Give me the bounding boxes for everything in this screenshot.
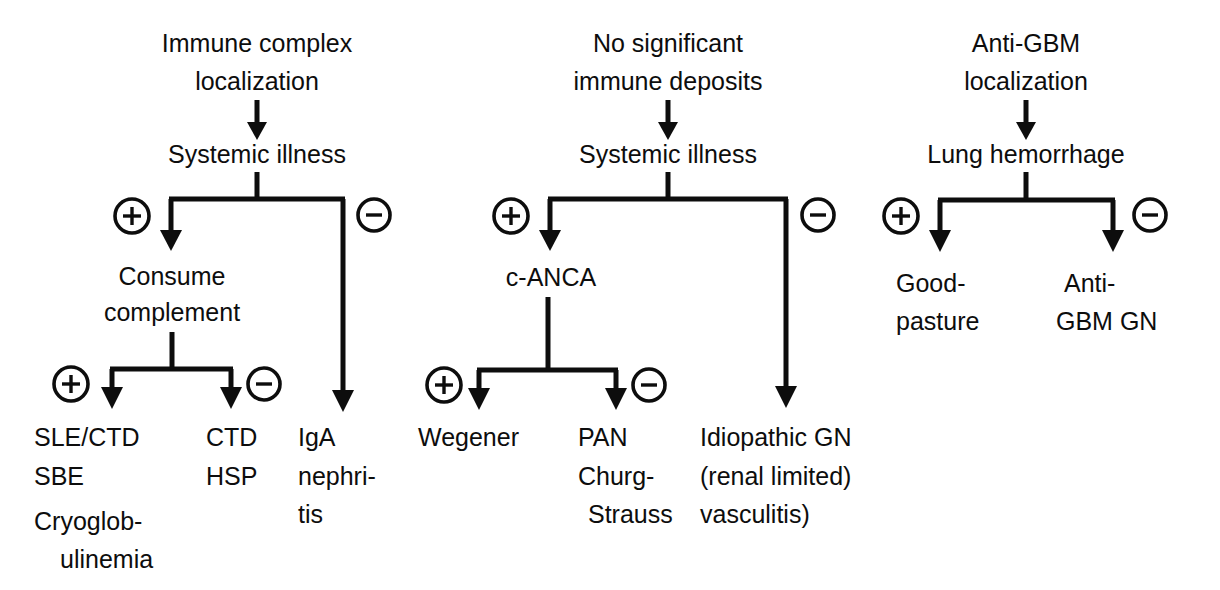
leaf-line: Cryoglob- xyxy=(34,507,142,535)
leaf-line: Good- xyxy=(896,269,965,297)
sign-negative-level1: - xyxy=(802,195,834,231)
column-title-line2: immune deposits xyxy=(574,67,763,95)
leaf-line: (renal limited) xyxy=(700,462,851,490)
column-immune-complex: Immune complex localization Systemic ill… xyxy=(34,29,390,573)
leaf-line: PAN xyxy=(578,423,628,451)
positive-node-line1: Consume xyxy=(119,262,226,290)
leaf-line: pasture xyxy=(896,307,979,335)
positive-node-line2: complement xyxy=(104,298,240,326)
leaf-line: tis xyxy=(298,500,323,528)
sign-positive-level1: + xyxy=(884,196,918,233)
leaf-line: Wegener xyxy=(418,423,519,451)
sign-negative-level1: - xyxy=(358,195,390,231)
sign-positive-level2: + xyxy=(427,365,461,402)
leaf-iga-nephritis: IgA nephri- tis xyxy=(298,423,376,528)
leaf-line: IgA xyxy=(298,423,336,451)
column-title-line2: localization xyxy=(964,67,1088,95)
step-label: Systemic illness xyxy=(579,140,757,168)
leaf-line: SBE xyxy=(34,462,84,490)
leaf-line: vasculitis) xyxy=(700,500,810,528)
leaf-line: GBM GN xyxy=(1056,307,1157,335)
leaf-line: ulinemia xyxy=(60,545,153,573)
column-anti-gbm: Anti-GBM localization Lung hemorrhage + xyxy=(884,29,1166,335)
leaf-line: nephri- xyxy=(298,462,376,490)
leaf-pan-churg-strauss: PAN Churg- Strauss xyxy=(578,423,673,528)
leaf-goodpasture: Good- pasture xyxy=(896,269,979,335)
branch-systemic-illness xyxy=(160,172,354,412)
leaf-sle-ctd-sbe-cryo: SLE/CTD SBE Cryoglob- ulinemia xyxy=(34,423,153,573)
sign-positive-level2: + xyxy=(54,364,88,401)
leaf-line: Churg- xyxy=(578,462,654,490)
sign-positive-level1: + xyxy=(115,196,149,233)
leaf-line: CTD xyxy=(206,423,257,451)
column-pauci-immune: No significant immune deposits Systemic … xyxy=(418,29,851,528)
step-label: Lung hemorrhage xyxy=(927,140,1124,168)
step-label: Systemic illness xyxy=(168,140,346,168)
branch-lung-hemorrhage xyxy=(929,172,1124,252)
flowchart-svg: Immune complex localization Systemic ill… xyxy=(0,0,1220,590)
leaf-line: Strauss xyxy=(588,500,673,528)
leaf-idiopathic-gn: Idiopathic GN (renal limited) vasculitis… xyxy=(700,423,851,528)
leaf-ctd-hsp: CTD HSP xyxy=(206,423,257,490)
column-title-line1: No significant xyxy=(593,29,743,57)
arrow-title-to-step xyxy=(658,100,678,140)
column-title-line1: Anti-GBM xyxy=(972,29,1080,57)
column-title-line1: Immune complex xyxy=(162,29,353,57)
column-title-line2: localization xyxy=(195,67,319,95)
sign-positive-level1: + xyxy=(494,196,528,233)
arrow-title-to-step xyxy=(247,100,267,140)
leaf-line: Idiopathic GN xyxy=(700,423,851,451)
positive-node-line1: c-ANCA xyxy=(506,263,597,291)
leaf-wegener: Wegener xyxy=(418,423,519,451)
branch-c-anca xyxy=(468,297,627,410)
sign-negative-level2: - xyxy=(633,365,665,401)
leaf-line: SLE/CTD xyxy=(34,423,140,451)
sign-negative-level1: - xyxy=(1134,195,1166,231)
leaf-anti-gbm-gn: Anti- GBM GN xyxy=(1056,269,1157,335)
flowchart-page: Immune complex localization Systemic ill… xyxy=(0,0,1220,590)
leaf-line: Anti- xyxy=(1064,269,1115,297)
arrow-title-to-step xyxy=(1016,100,1036,140)
branch-consume-complement xyxy=(101,332,242,409)
leaf-line: HSP xyxy=(206,462,257,490)
sign-negative-level2: - xyxy=(248,364,280,400)
